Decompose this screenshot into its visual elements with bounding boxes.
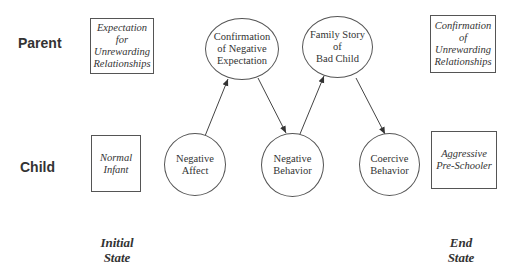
arrow-family-story-to-coercive [356,78,385,134]
box-parent-initial: Expectation for Unrewarding Relationship… [90,18,154,74]
state-initial: Initial State [92,235,142,265]
node-family-story-of-bad-child: Family Story of Bad Child [302,16,373,78]
box-parent-end: Confirmation of Unrewarding Relationship… [430,15,496,73]
arrow-confirmation-to-behavior [258,78,286,133]
arrow-affect-to-confirmation [205,79,228,136]
row-label-parent: Parent [18,35,62,51]
row-label-child: Child [20,159,55,175]
node-negative-behavior: Negative Behavior [261,133,324,197]
arrow-behavior-to-family-story [300,76,324,134]
state-end: End State [436,235,486,265]
node-confirmation-of-negative-expectation: Confirmation of Negative Expectation [205,18,279,80]
box-child-initial: Normal Infant [91,135,141,192]
node-coercive-behavior: Coercive Behavior [359,133,420,196]
box-child-end: Aggressive Pre-Schooler [431,131,497,189]
node-negative-affect: Negative Affect [164,133,226,196]
